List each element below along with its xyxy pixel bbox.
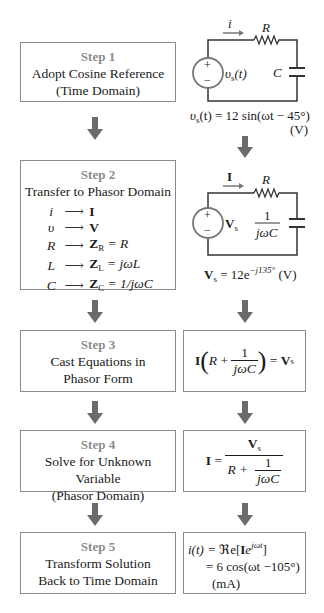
eq5-line2: = 6 cos(ωt −105°) — [188, 558, 305, 575]
step5-equation-box: i(t) = ℜe[Iejωt] = 6 cos(ωt −105°) (mA) — [183, 532, 306, 594]
source-plus: + — [204, 208, 211, 223]
capacitor-impedance-num: 1 — [264, 208, 271, 223]
resistor-label: R — [262, 172, 270, 187]
capacitor-impedance-den: jωC — [256, 225, 277, 240]
step3-label: Step 3 — [21, 336, 175, 353]
eq5-line1: i(t) = ℜe[Iejωt] — [188, 537, 305, 558]
step4-box: Step 4 Solve for Unknown Variable (Phaso… — [20, 430, 176, 492]
step5-line1: Transform Solution — [21, 555, 175, 572]
resistor-icon — [254, 189, 281, 197]
eq5-line3: (mA) — [188, 575, 305, 592]
step4-line1: Solve for Unknown Variable — [21, 453, 175, 487]
step4-line2: (Phasor Domain) — [21, 487, 175, 504]
fraction: Vs R + 1 jωC — [225, 437, 283, 486]
step3-line2: Phasor Form — [21, 370, 175, 387]
step5-label: Step 5 — [21, 538, 175, 555]
source-minus: − — [204, 223, 211, 238]
step3-box: Step 3 Cast Equations in Phasor Form — [20, 330, 176, 392]
step4-equation-box: I = Vs R + 1 jωC — [183, 430, 306, 492]
step5-box: Step 5 Transform Solution Back to Time D… — [20, 532, 176, 594]
step4-label: Step 4 — [21, 436, 175, 453]
source-label: Vs — [225, 216, 238, 236]
fraction: 1 jωC — [231, 346, 257, 376]
circuit-phasor-schematic — [0, 0, 324, 613]
current-label-I: I — [227, 169, 232, 184]
step5-line2: Back to Time Domain — [21, 572, 175, 589]
step3-line1: Cast Equations in — [21, 353, 175, 370]
step3-equation-box: I ( R + 1 jωC ) = Vs — [183, 330, 306, 392]
left-paren: ( — [200, 348, 209, 374]
source-phasor-equation: Vs = 12e−j135° (V) — [204, 263, 297, 287]
right-paren: ) — [258, 348, 267, 374]
